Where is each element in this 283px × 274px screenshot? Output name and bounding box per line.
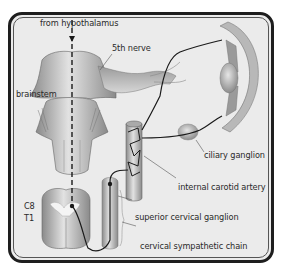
label-ciliary-ganglion: ciliary ganglion <box>204 151 265 159</box>
label-c8: C8 <box>24 202 35 210</box>
spinal-cord-illustration <box>42 188 90 248</box>
down-arrow-icon <box>69 36 75 42</box>
label-cervical-sympathetic-chain: cervical sympathetic chain <box>140 242 247 250</box>
synapse-dot <box>70 204 74 208</box>
sympathetic-chain-illustration <box>102 178 124 250</box>
label-fifth-nerve: 5th nerve <box>112 44 151 52</box>
pathway-illustration <box>0 0 283 274</box>
label-internal-carotid-artery: internal carotid artery <box>178 183 266 191</box>
carotid-artery-illustration <box>126 121 142 201</box>
fifth-nerve-illustration <box>98 62 186 93</box>
eye-illustration <box>220 22 258 132</box>
label-superior-cervical-ganglion: superior cervical ganglion <box>135 213 238 221</box>
label-from-hypothalamus: from hypothalamus <box>40 19 118 27</box>
synapse-dot <box>108 182 112 186</box>
label-brainstem: brainstem <box>16 90 57 98</box>
label-t1: T1 <box>24 214 34 222</box>
